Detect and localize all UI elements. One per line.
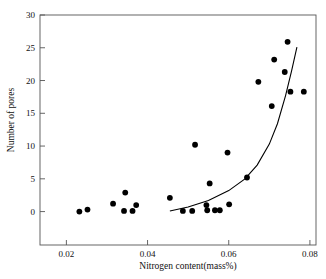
data-point — [288, 89, 294, 95]
scatter-chart: 0510152025300.020.040.060.08Nitrogen con… — [0, 0, 326, 279]
data-point — [167, 195, 173, 201]
y-tick-label: 15 — [26, 108, 36, 118]
data-point — [130, 208, 136, 214]
fit-curve — [170, 47, 297, 211]
y-tick-label: 25 — [26, 43, 36, 53]
data-point — [207, 181, 213, 187]
x-tick-label: 0.02 — [59, 249, 75, 259]
data-point — [282, 69, 288, 75]
y-tick-label: 0 — [31, 207, 36, 217]
data-point — [255, 79, 261, 85]
data-point — [269, 103, 275, 109]
data-point — [285, 39, 291, 45]
data-point — [226, 201, 232, 207]
data-point — [110, 201, 116, 207]
data-point — [244, 175, 250, 181]
data-point — [271, 57, 277, 63]
data-point — [122, 190, 128, 196]
x-tick-label: 0.08 — [302, 249, 318, 259]
y-tick-label: 5 — [31, 174, 36, 184]
data-point — [225, 150, 231, 156]
data-point — [121, 208, 127, 214]
x-tick-label: 0.06 — [221, 249, 237, 259]
y-tick-label: 30 — [26, 10, 36, 20]
data-point — [192, 142, 198, 148]
data-point — [217, 207, 223, 213]
data-point — [301, 89, 307, 95]
data-point — [76, 209, 82, 215]
y-tick-label: 10 — [26, 141, 36, 151]
data-point — [189, 208, 195, 214]
data-point — [133, 202, 139, 208]
x-axis-title: Nitrogen content(mass%) — [139, 261, 236, 272]
data-point — [204, 207, 210, 213]
plot-canvas: 0510152025300.020.040.060.08Nitrogen con… — [0, 0, 326, 279]
x-tick-label: 0.04 — [140, 249, 156, 259]
data-point — [180, 208, 186, 214]
y-axis-title: Number of pores — [6, 88, 16, 153]
y-tick-label: 20 — [26, 76, 36, 86]
data-point — [85, 207, 91, 213]
data-point — [204, 202, 210, 208]
